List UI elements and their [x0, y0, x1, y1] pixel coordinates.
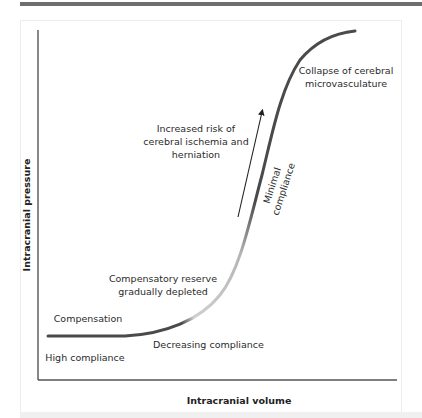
- x-axis-title: Intracranial volume: [187, 395, 292, 406]
- label-decreasing-compliance: Decreasing compliance: [153, 339, 264, 350]
- label-collapse-line2: microvasculature: [305, 78, 387, 89]
- label-reserve-line1: Compensatory reserve: [109, 273, 217, 284]
- arrow-up-icon: [238, 112, 262, 217]
- label-risk-line1: Increased risk of: [157, 123, 236, 134]
- label-risk-line3: herniation: [172, 149, 220, 160]
- label-high-compliance: High compliance: [45, 352, 125, 363]
- y-axis-title: Intracranial pressure: [21, 159, 32, 272]
- label-reserve-line2: gradually depleted: [118, 286, 208, 297]
- label-risk-line2: cerebral ischemia and: [143, 136, 248, 147]
- label-collapse-line1: Collapse of cerebral: [299, 65, 394, 76]
- pressure-volume-curve-chart: Collapse of cerebral microvasculature In…: [0, 0, 422, 418]
- label-compensation: Compensation: [54, 313, 123, 324]
